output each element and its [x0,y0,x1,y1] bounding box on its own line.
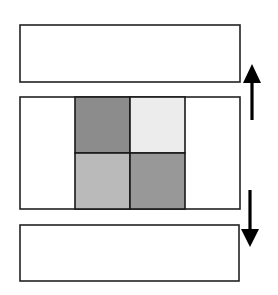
arrow-head [241,229,259,247]
grid-cell-r1-c0 [75,153,130,209]
arrow-up-icon [243,64,261,120]
grid-cell-r0-c0 [75,97,130,153]
panel-top [20,25,240,82]
arrow-down-icon [241,190,259,247]
grid-cell-r1-c1 [130,153,185,209]
arrow-head [243,64,261,83]
panel-bottom [20,225,239,281]
arrows [241,64,261,247]
diagram-canvas [0,0,278,295]
color-grid [75,97,185,209]
grid-cell-r0-c1 [130,97,185,153]
